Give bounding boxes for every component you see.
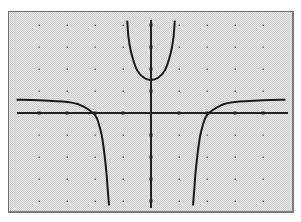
grid-dot <box>39 69 41 71</box>
grid-dot <box>179 25 181 27</box>
grid-dot <box>95 135 97 137</box>
grid-dot <box>95 91 97 93</box>
grid-dot <box>95 157 97 159</box>
grid-dot <box>235 135 237 137</box>
x-tick <box>262 112 265 115</box>
grid-dot <box>39 157 41 159</box>
grid-dot <box>207 91 209 93</box>
grid-dot <box>67 91 69 93</box>
grid-dot <box>67 201 69 203</box>
y-tick <box>150 134 153 137</box>
grid-dot <box>235 25 237 27</box>
grid-dot <box>179 157 181 159</box>
grid-dot <box>235 201 237 203</box>
y-tick <box>150 46 153 49</box>
grid-dot <box>263 25 265 27</box>
x-tick <box>234 112 237 115</box>
x-tick <box>122 112 125 115</box>
grid-dot <box>39 179 41 181</box>
grid-dot <box>123 47 125 49</box>
grid-dot <box>207 69 209 71</box>
grid-dot <box>67 69 69 71</box>
grid-dot <box>39 135 41 137</box>
grid-dot <box>207 47 209 49</box>
grid-dot <box>179 47 181 49</box>
grid-dot <box>263 179 265 181</box>
grid-dot <box>179 179 181 181</box>
axes <box>17 20 288 208</box>
grid-dot <box>207 25 209 27</box>
grid-dot <box>39 47 41 49</box>
y-tick <box>150 24 153 27</box>
y-tick <box>150 156 153 159</box>
grid-dot <box>263 47 265 49</box>
grid-dot <box>123 201 125 203</box>
x-tick <box>66 112 69 115</box>
grid-dot <box>179 135 181 137</box>
y-tick <box>150 90 153 93</box>
grid-dot <box>235 91 237 93</box>
grid-dot <box>95 69 97 71</box>
grid-dot <box>263 157 265 159</box>
y-tick <box>150 68 153 71</box>
x-tick <box>178 112 181 115</box>
grid-dot <box>123 157 125 159</box>
grid-dot <box>95 179 97 181</box>
grid-dot <box>95 47 97 49</box>
grid-dot <box>263 201 265 203</box>
y-tick <box>150 178 153 181</box>
grid-dot <box>207 179 209 181</box>
grid-dot <box>67 25 69 27</box>
grid-dot <box>207 201 209 203</box>
grid-dot <box>263 69 265 71</box>
grid-dot <box>207 157 209 159</box>
y-tick <box>150 200 153 203</box>
x-tick <box>38 112 41 115</box>
grid-dot <box>235 179 237 181</box>
grid-dot <box>67 157 69 159</box>
grid-dot <box>179 201 181 203</box>
grid-dot <box>123 91 125 93</box>
grid-dot <box>123 179 125 181</box>
grid-dot <box>235 157 237 159</box>
grid-dot <box>179 91 181 93</box>
grid-dot <box>67 179 69 181</box>
grid-dot <box>39 25 41 27</box>
grid-dot <box>95 201 97 203</box>
curve-right-branch <box>193 100 285 206</box>
grid-dot <box>179 69 181 71</box>
grid-dot <box>263 135 265 137</box>
grid-dot <box>123 135 125 137</box>
grid-dot <box>207 135 209 137</box>
grid-dot <box>263 91 265 93</box>
grid-dot <box>235 47 237 49</box>
grid-dot <box>39 91 41 93</box>
grid-dot <box>95 25 97 27</box>
grid-dot <box>123 25 125 27</box>
grid-dot <box>67 135 69 137</box>
curve-left-branch <box>17 100 109 206</box>
grid-dot <box>235 69 237 71</box>
grid-dot <box>39 201 41 203</box>
grid-dot <box>123 69 125 71</box>
function-plot <box>0 0 301 222</box>
grid-dot <box>67 47 69 49</box>
